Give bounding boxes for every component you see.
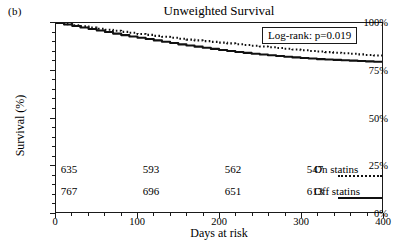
legend-label-off-statins: Off statins <box>314 185 360 197</box>
x-minor-tick <box>334 213 335 216</box>
y-axis: Survival (%) <box>0 0 55 243</box>
at-risk-count-off-statins: 651 <box>225 185 242 197</box>
x-minor-tick <box>170 213 171 216</box>
x-tick-label: 200 <box>211 216 227 227</box>
y-minor-tick <box>52 137 55 138</box>
y-minor-tick <box>52 127 55 128</box>
y-tick-label: 50% <box>369 112 388 123</box>
y-minor-tick <box>52 156 55 157</box>
x-minor-tick <box>88 213 89 216</box>
x-minor-tick <box>235 213 236 216</box>
at-risk-count-on-statins: 562 <box>225 163 242 175</box>
y-minor-tick <box>52 146 55 147</box>
y-minor-tick <box>52 79 55 80</box>
x-minor-tick <box>317 213 318 216</box>
x-tick-label: 0 <box>52 216 57 227</box>
x-minor-tick <box>186 213 187 216</box>
x-minor-tick <box>121 213 122 216</box>
y-tick-label: 25% <box>369 160 388 171</box>
x-minor-tick <box>252 213 253 216</box>
at-risk-count-off-statins: 696 <box>143 185 160 197</box>
y-tick-mark <box>50 118 55 119</box>
y-tick-label: 100% <box>364 17 389 28</box>
y-tick-mark <box>50 165 55 166</box>
x-minor-tick <box>71 213 72 216</box>
y-minor-tick <box>52 203 55 204</box>
x-minor-tick <box>104 213 105 216</box>
survival-figure: (b) Unweighted Survival Survival (%) 635… <box>0 0 395 243</box>
y-minor-tick <box>52 108 55 109</box>
y-minor-tick <box>52 98 55 99</box>
x-tick-label: 300 <box>293 216 309 227</box>
x-minor-tick <box>367 213 368 216</box>
y-tick-mark <box>50 22 55 23</box>
x-minor-tick <box>350 213 351 216</box>
x-minor-tick <box>285 213 286 216</box>
x-axis-title: Days at risk <box>55 226 383 241</box>
y-tick-mark <box>50 70 55 71</box>
y-minor-tick <box>52 175 55 176</box>
at-risk-count-on-statins: 635 <box>61 163 78 175</box>
x-minor-tick <box>153 213 154 216</box>
x-tick-label: 100 <box>129 216 145 227</box>
y-minor-tick <box>52 184 55 185</box>
y-minor-tick <box>52 32 55 33</box>
log-rank-annotation: Log-rank: p=0.019 <box>262 27 357 44</box>
legend-label-on-statins: On statins <box>314 163 358 175</box>
y-minor-tick <box>52 194 55 195</box>
x-minor-tick <box>203 213 204 216</box>
y-minor-tick <box>52 41 55 42</box>
chart-title: Unweighted Survival <box>55 3 383 19</box>
at-risk-table: 635593562547 767696651613 On statins Off… <box>55 22 383 213</box>
y-tick-label: 75% <box>369 64 388 75</box>
legend-key-solid-line <box>338 197 382 199</box>
at-risk-count-on-statins: 593 <box>143 163 160 175</box>
legend-key-dotted-line <box>338 175 382 177</box>
x-minor-tick <box>268 213 269 216</box>
y-axis-title: Survival (%) <box>13 66 28 186</box>
y-minor-tick <box>52 51 55 52</box>
x-tick-label: 400 <box>375 216 391 227</box>
at-risk-count-off-statins: 767 <box>61 185 78 197</box>
y-minor-tick <box>52 89 55 90</box>
y-minor-tick <box>52 60 55 61</box>
